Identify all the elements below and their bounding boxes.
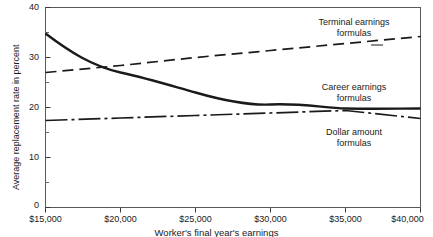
annotation-dollar-line1: Dollar amount [299,127,409,138]
annotation-terminal-earnings-formulas: Terminal earnings formulas [299,17,409,39]
x-tick-label-25000: $25,000 [157,214,234,224]
series-dollar-amount-formulas [46,111,421,121]
chart-figure: 40 30 20 10 0 $15,000 $20,000 $25,000 $3… [0,0,433,237]
x-tick-label-35000: $35,000 [307,214,384,224]
annotation-career-line2: formulas [299,93,409,104]
annotation-dollar-line2: formulas [299,138,409,149]
annotation-dollar-amount-formulas: Dollar amount formulas [299,127,409,149]
x-tick-label-40000: $40,000 [382,214,433,224]
annotation-terminal-line1: Terminal earnings [299,17,409,28]
x-axis-label: Worker's final year's earnings [0,227,433,237]
y-axis-label: Average replacement rate in percent [11,45,21,190]
y-tick-label-40: 40 [17,2,39,12]
x-tick-label-30000: $30,000 [232,214,309,224]
x-tick-label-20000: $20,000 [82,214,159,224]
annotation-career-earnings-formulas: Career earnings formulas [299,82,409,104]
annotation-terminal-line2: formulas [299,28,409,39]
x-tick-label-15000: $15,000 [7,214,84,224]
y-tick-label-0: 0 [17,200,39,210]
annotation-career-line1: Career earnings [299,82,409,93]
x-axis-major-ticks [46,208,421,213]
